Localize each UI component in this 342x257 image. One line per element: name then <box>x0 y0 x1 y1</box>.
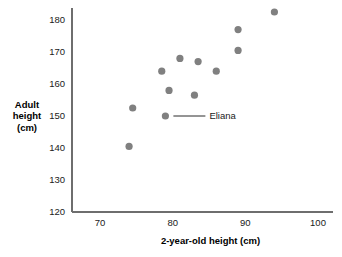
y-tick-label: 160 <box>49 78 65 89</box>
data-point <box>271 8 278 15</box>
x-tick-label: 70 <box>95 217 106 228</box>
y-tick-label: 130 <box>49 174 65 185</box>
data-point-highlighted <box>162 112 169 119</box>
axes <box>72 8 333 212</box>
data-point <box>234 26 241 33</box>
x-axis-title: 2-year-old height (cm) <box>161 235 260 246</box>
y-tick-label: 120 <box>49 206 65 217</box>
y-axis-title-line: Adult <box>15 99 40 110</box>
x-tick-label: 100 <box>310 217 326 228</box>
data-point <box>176 55 183 62</box>
data-point <box>125 143 132 150</box>
scatter-chart: 120130140150160170180 708090100 Eliana 2… <box>0 0 342 257</box>
y-tick-label: 180 <box>49 14 65 25</box>
annotation-label-eliana: Eliana <box>209 110 236 121</box>
y-axis-title-line: (cm) <box>17 122 37 133</box>
data-point <box>191 92 198 99</box>
data-point <box>158 68 165 75</box>
y-tick-label: 150 <box>49 110 65 121</box>
data-points <box>125 8 278 150</box>
data-point <box>195 58 202 65</box>
x-axis-tick-labels: 708090100 <box>95 217 326 228</box>
data-point <box>213 68 220 75</box>
data-point <box>165 87 172 94</box>
x-tick-label: 80 <box>167 217 178 228</box>
data-point <box>234 47 241 54</box>
data-point <box>129 104 136 111</box>
y-tick-label: 140 <box>49 142 65 153</box>
plot-area: 120130140150160170180 708090100 Eliana 2… <box>0 0 342 257</box>
annotations: Eliana <box>173 110 236 121</box>
x-tick-label: 90 <box>240 217 251 228</box>
y-axis-tick-labels: 120130140150160170180 <box>49 14 65 217</box>
y-axis-title-line: height <box>13 110 42 121</box>
y-tick-label: 170 <box>49 46 65 57</box>
